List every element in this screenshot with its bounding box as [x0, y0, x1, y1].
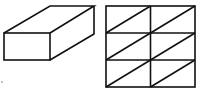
cuboid-drawing — [4, 6, 94, 60]
cuboid-right-face — [50, 6, 94, 60]
grid-drawing — [106, 6, 195, 87]
cell-diagonal — [151, 6, 196, 33]
cell-diagonal — [106, 60, 151, 87]
cuboid-top-face — [4, 6, 94, 33]
cuboid-front-face — [4, 33, 50, 60]
diagram-canvas — [0, 0, 201, 90]
cell-diagonal — [106, 6, 151, 33]
stray-mark — [1, 81, 2, 82]
cell-diagonal — [151, 60, 196, 87]
cell-diagonal — [151, 33, 196, 60]
cell-diagonal — [106, 33, 151, 60]
